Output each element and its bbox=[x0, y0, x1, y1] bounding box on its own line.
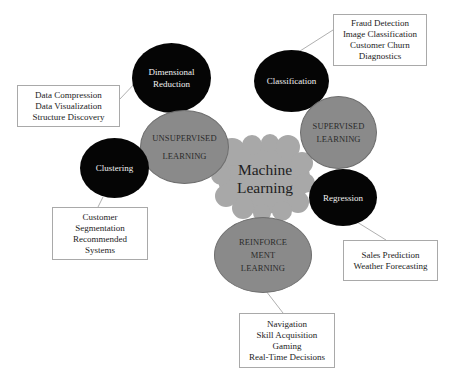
node-reinforcement-learning[interactable]: REINFORCE MENT LEARNING bbox=[214, 217, 312, 293]
box-reinforcement-applications: Navigation Skill Acquisition Gaming Real… bbox=[239, 313, 335, 368]
node-unsupervised-learning[interactable]: UNSUPERVISED LEARNING bbox=[140, 110, 229, 184]
app-item: Real-Time Decisions bbox=[249, 352, 325, 363]
unsupervised-line1: UNSUPERVISED bbox=[152, 132, 216, 145]
node-regression[interactable]: Regression bbox=[309, 169, 377, 226]
app-item: Image Classification bbox=[343, 29, 417, 40]
ml-mind-map: Machine Learning Dimensional Reduction C… bbox=[0, 0, 449, 381]
reinforcement-line1: REINFORCE bbox=[239, 236, 287, 249]
center-label-line2: Learning bbox=[230, 179, 300, 197]
app-item: Systems bbox=[73, 245, 127, 256]
box-dimred-applications: Data Compression Data Visualization Stru… bbox=[17, 85, 120, 127]
app-item: Data Compression bbox=[32, 90, 104, 101]
node-supervised-learning[interactable]: SUPERVISED LEARNING bbox=[300, 96, 377, 169]
connector-clustering-box bbox=[98, 197, 103, 207]
center-label-line1: Machine bbox=[230, 161, 300, 179]
regression-label: Regression bbox=[323, 192, 363, 204]
connector-regression-box bbox=[357, 222, 386, 240]
app-item: Diagnostics bbox=[343, 51, 417, 62]
app-item: Recommended bbox=[73, 234, 127, 245]
reinforcement-line3: LEARNING bbox=[239, 262, 287, 275]
dimred-line1: Dimensional bbox=[149, 66, 195, 78]
app-item: Gaming bbox=[249, 341, 325, 352]
app-item: Structure Discovery bbox=[32, 112, 104, 123]
app-item: Customer bbox=[73, 212, 127, 223]
unsupervised-line2: LEARNING bbox=[152, 150, 216, 163]
app-item: Fraud Detection bbox=[343, 18, 417, 29]
app-item: Weather Forecasting bbox=[354, 261, 428, 272]
connector-reinforcement-box bbox=[266, 291, 283, 313]
app-item: Segmentation bbox=[73, 223, 127, 234]
supervised-line2: LEARNING bbox=[313, 133, 365, 146]
app-item: Customer Churn bbox=[343, 40, 417, 51]
supervised-line1: SUPERVISED bbox=[313, 120, 365, 133]
dimred-line2: Reduction bbox=[149, 78, 195, 90]
connector-classification-box bbox=[300, 30, 333, 51]
node-dimensional-reduction[interactable]: Dimensional Reduction bbox=[132, 43, 211, 113]
box-regression-applications: Sales Prediction Weather Forecasting bbox=[343, 240, 438, 281]
classification-label: Classification bbox=[267, 75, 317, 87]
app-item: Sales Prediction bbox=[354, 250, 428, 261]
box-classification-applications: Fraud Detection Image Classification Cus… bbox=[333, 14, 427, 66]
app-item: Data Visualization bbox=[32, 101, 104, 112]
app-item: Navigation bbox=[249, 319, 325, 330]
app-item: Skill Acquisition bbox=[249, 330, 325, 341]
node-clustering[interactable]: Clustering bbox=[80, 138, 149, 198]
center-label: Machine Learning bbox=[230, 161, 300, 197]
box-clustering-applications: Customer Segmentation Recommended System… bbox=[52, 207, 148, 260]
reinforcement-line2: MENT bbox=[239, 249, 287, 262]
clustering-label: Clustering bbox=[96, 162, 134, 174]
